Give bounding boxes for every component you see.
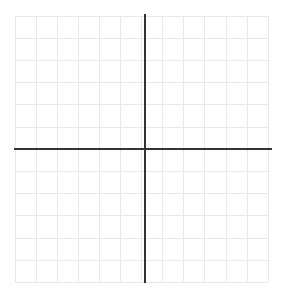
- coordinate-plane-figure: [0, 0, 283, 294]
- coordinate-grid-plot: [0, 0, 283, 294]
